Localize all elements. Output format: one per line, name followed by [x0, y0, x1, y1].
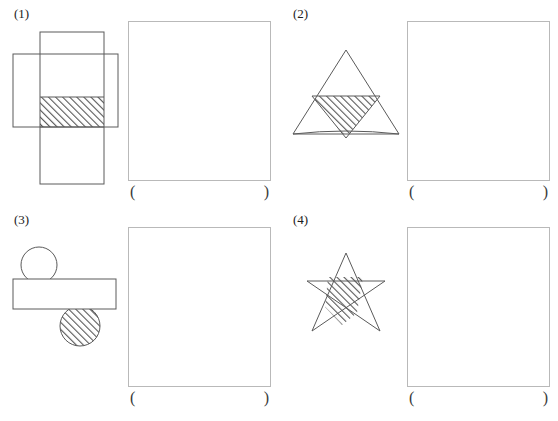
- hatched-circle: [60, 306, 100, 346]
- answer-box-4[interactable]: [407, 227, 550, 387]
- answer-paren-close-1: ): [264, 182, 269, 201]
- answer-box-2[interactable]: [407, 21, 550, 181]
- answer-paren-open-1: (: [130, 182, 135, 201]
- figure-rectangle-with-two-circles: [8, 228, 126, 390]
- answer-parens-1: ( ): [128, 182, 271, 202]
- answer-parens-4: ( ): [407, 388, 550, 408]
- answer-box-3[interactable]: [128, 227, 271, 387]
- problem-2: (2): [279, 0, 558, 210]
- answer-paren-close-3: ): [264, 388, 269, 407]
- problem-2-number: (2): [293, 6, 308, 21]
- problem-4: (4) ( ): [279, 206, 558, 416]
- answer-paren-open-4: (: [409, 388, 414, 407]
- hatched-overlap-region: [40, 97, 104, 127]
- top-circle: [21, 247, 57, 283]
- answer-paren-close-4: ): [543, 388, 548, 407]
- problem-4-number: (4): [293, 212, 308, 227]
- answer-paren-open-3: (: [130, 388, 135, 407]
- problem-3: (3) ( ): [0, 206, 279, 416]
- answer-parens-3: ( ): [128, 388, 271, 408]
- answer-paren-close-2: ): [543, 182, 548, 201]
- answer-parens-2: ( ): [407, 182, 550, 202]
- worksheet: (1): [0, 0, 558, 421]
- horizontal-rectangle: [13, 279, 116, 309]
- problem-1: (1): [0, 0, 279, 210]
- figure-five-pointed-star: [287, 228, 405, 390]
- problem-1-number: (1): [14, 6, 29, 21]
- problem-3-number: (3): [14, 212, 29, 227]
- answer-paren-open-2: (: [409, 182, 414, 201]
- figure-two-overlapping-rectangles: [8, 22, 126, 184]
- figure-two-overlapping-triangles: [287, 22, 405, 184]
- answer-box-1[interactable]: [128, 21, 271, 181]
